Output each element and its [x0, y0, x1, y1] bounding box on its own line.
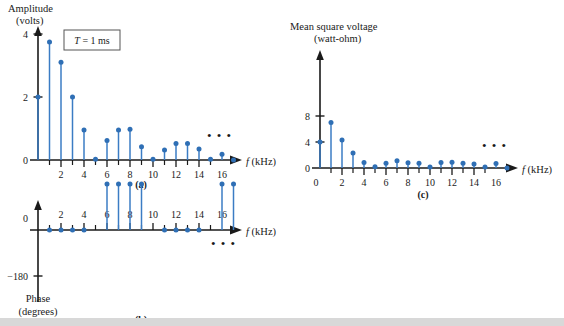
panel-b-svg: 0 −180 2 4 6 8 10 12 14 16 [0, 192, 282, 326]
panel-c-point [417, 161, 422, 166]
panel-c-point [450, 160, 455, 165]
panel-b-xtick-12: 12 [171, 209, 181, 220]
panel-a-point [197, 146, 202, 151]
panel-c-point [439, 160, 444, 165]
panel-c-xtick-4: 4 [362, 177, 367, 188]
panel-c-point [373, 164, 378, 169]
panel-c-xtick-12: 12 [447, 177, 457, 188]
panel-a-xtick-4: 4 [82, 169, 87, 180]
panel-a-xtick-12: 12 [171, 169, 181, 180]
panel-a-point [174, 141, 179, 146]
panel-a-xtick-16: 16 [217, 169, 227, 180]
panel-a-point [70, 95, 75, 100]
panel-c-xlabel: f (kHz) [522, 164, 553, 176]
panel-c-point [362, 160, 367, 165]
panel-c-point [318, 140, 323, 145]
panel-b-point [162, 228, 167, 233]
panel-c-ellipsis: • • • [482, 138, 507, 153]
panel-b-point [185, 228, 190, 233]
panel-a-point [208, 157, 213, 162]
panel-a-axes [30, 26, 242, 164]
panel-a-stems [36, 39, 237, 162]
panel-a-xtick-2: 2 [59, 169, 64, 180]
panel-b-xtick-2: 2 [59, 209, 64, 220]
panel-a-annotation-rest: = 1 ms [80, 35, 110, 46]
panel-a-point [47, 39, 52, 44]
panel-a-point [93, 157, 98, 162]
panel-b-point [128, 181, 133, 186]
panel-a-xticks: 2 4 6 8 10 12 14 16 [50, 160, 228, 180]
panel-c-ylabel-line1: Mean square voltage [290, 21, 378, 32]
panel-c-point [505, 166, 510, 171]
panel-a-ylabel-line2: (volts) [16, 15, 44, 27]
panel-c-ytick-4: 4 [305, 137, 310, 148]
panel-c-xtick-10: 10 [425, 177, 435, 188]
panel-a-ytick-4: 4 [23, 29, 28, 40]
panel-a-xtick-14: 14 [194, 169, 204, 180]
panel-c-axis-labels: Mean square voltage (watt-ohm) [290, 21, 378, 45]
panel-c-point [340, 138, 345, 143]
panel-b-point [174, 228, 179, 233]
panel-c-xlabel-rest: (kHz) [525, 164, 553, 176]
panel-a-point [231, 158, 236, 163]
panel-a-xtick-8: 8 [128, 169, 133, 180]
panel-a-point [162, 147, 167, 152]
panel-b-ellipsis: • • • [211, 236, 236, 251]
panel-c-axes [312, 50, 518, 172]
panel-b-ylabel-line1: Phase [26, 293, 51, 304]
panel-c-point [472, 162, 477, 167]
panel-b-point [139, 181, 144, 186]
panel-c-point [461, 161, 466, 166]
panel-a-point [116, 128, 121, 133]
panel-c-ytick-8: 8 [305, 111, 310, 122]
panel-c-point [483, 165, 488, 170]
panel-a-annotation-box: T = 1 ms [64, 30, 120, 50]
panel-b-point [116, 181, 121, 186]
panel-c-ylabel-line2: (watt-ohm) [314, 33, 362, 45]
panel-c-xtick-14: 14 [469, 177, 479, 188]
panel-b-point [82, 228, 87, 233]
panel-b-xtick-4: 4 [82, 209, 87, 220]
panel-c-point [406, 160, 411, 165]
panel-b-point [197, 228, 202, 233]
panel-a-ellipsis: • • • [207, 128, 232, 143]
panel-b-xticks: 2 4 6 8 10 12 14 16 [50, 209, 228, 230]
panel-c-xtick-6: 6 [384, 177, 389, 188]
panel-c-label: (c) [417, 189, 428, 201]
panel-b-ytick-0: 0 [23, 213, 28, 224]
panel-b-point [220, 181, 225, 186]
panel-a-point [59, 60, 64, 65]
panel-a-ytick-0: 0 [23, 155, 28, 166]
panel-b-ytick-180: −180 [7, 271, 28, 282]
panel-a-xlabel: f (kHz) [246, 156, 277, 168]
panel-b-point [231, 181, 236, 186]
panel-c-point [395, 158, 400, 163]
panel-a-figure: Amplitude (volts) T = 1 ms 0 2 4 [0, 0, 282, 190]
panel-c-point [329, 120, 334, 125]
panel-a-point [151, 157, 156, 162]
panel-b-xtick-10: 10 [148, 209, 158, 220]
panel-c-xticks: 2 4 6 8 10 12 14 16 0 [314, 168, 502, 188]
panel-b-ylabel-line2: (degrees) [18, 306, 58, 318]
panel-b-xtick-14: 14 [194, 209, 204, 220]
panel-a-point [220, 152, 225, 157]
panel-a-axis-labels: Amplitude (volts) [8, 3, 53, 27]
panel-b-figure: 0 −180 2 4 6 8 10 12 14 16 [0, 192, 282, 326]
panel-c-xtick-8: 8 [406, 177, 411, 188]
panel-a-svg: Amplitude (volts) T = 1 ms 0 2 4 [0, 0, 282, 190]
page-bottom-edge [0, 318, 564, 326]
panel-c-xtick-2: 2 [340, 177, 345, 188]
panel-b-xlabel: f (kHz) [246, 226, 277, 238]
panel-a-point [105, 138, 110, 143]
panel-b-xlabel-rest: (kHz) [249, 226, 277, 238]
panel-c-point [494, 161, 499, 166]
panel-a-point [82, 128, 87, 133]
panel-a-ylabel-line1: Amplitude [8, 3, 53, 14]
panel-a-xtick-10: 10 [148, 169, 158, 180]
panel-b-point [47, 228, 52, 233]
panel-c-figure: Mean square voltage (watt-ohm) 0 4 8 [282, 0, 564, 200]
panel-b-point [105, 181, 110, 186]
panel-a-annotation-text: T = 1 ms [74, 35, 109, 46]
panel-a-point [139, 144, 144, 149]
panel-a-point [36, 95, 41, 100]
